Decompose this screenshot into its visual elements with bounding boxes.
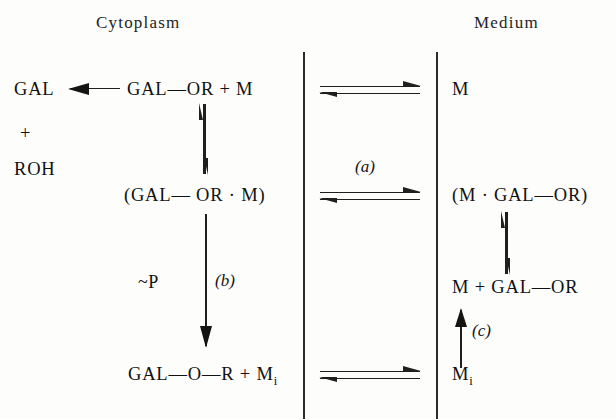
arrow-step-c-up: [460, 310, 462, 368]
membrane-line-outer: [436, 52, 438, 419]
species-m-plus-gal-or-release: M + GAL—OR: [452, 278, 578, 297]
equilibrium-horizontal-middle: [320, 190, 420, 204]
species-m-gal-or-complex: (M · GAL—OR): [452, 186, 588, 205]
membrane-line-inner: [303, 52, 305, 419]
step-label-c: (c): [472, 322, 491, 339]
transport-scheme-figure: Cytoplasm Medium GAL + ROH GAL—OR + M M …: [0, 0, 616, 419]
species-mi-bottom-medium: Mi: [452, 365, 473, 387]
species-gal-or-plus-m: GAL—OR + M: [127, 80, 253, 99]
species-plus-sign: +: [20, 124, 31, 143]
species-carrier-m-medium: M: [452, 80, 469, 99]
arrow-step-b-down: [205, 214, 207, 346]
step-label-b: (b): [215, 272, 235, 289]
label-energy-phosphate: ~P: [138, 273, 159, 291]
species-gal-or-m-complex: (GAL— OR · M): [124, 186, 265, 205]
equilibrium-vertical-cytoplasm: [196, 104, 210, 174]
species-mi-bottom-subscript: i: [469, 374, 472, 388]
arrow-hydrolysis-left: [70, 88, 120, 90]
species-gal-o-r-subscript: i: [274, 374, 277, 388]
species-gal-o-r-text: GAL—O—R + M: [128, 364, 274, 384]
step-label-a: (a): [355, 158, 375, 175]
species-roh-product: ROH: [14, 160, 55, 179]
equilibrium-vertical-medium: [498, 212, 512, 274]
equilibrium-horizontal-top: [320, 84, 420, 98]
species-gal-product: GAL: [14, 80, 54, 99]
equilibrium-horizontal-bottom: [320, 369, 420, 383]
header-medium: Medium: [474, 14, 539, 31]
species-mi-bottom-text: M: [452, 364, 469, 384]
species-gal-o-r-product: GAL—O—R + Mi: [128, 365, 277, 387]
header-cytoplasm: Cytoplasm: [96, 14, 180, 31]
